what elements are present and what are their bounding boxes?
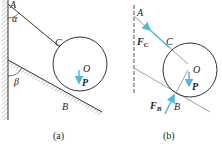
statics-diagram: A α C O P β B (a) A FC C O P FB B (b): [0, 0, 222, 149]
caption-a: (a): [53, 130, 64, 142]
caption-b: (b): [163, 130, 175, 142]
label-c: C: [55, 37, 62, 48]
label-o: O: [83, 63, 90, 74]
label-beta: β: [13, 76, 19, 87]
label-p-b: P: [192, 81, 199, 92]
figure-a: A α C O P β B (a): [2, 0, 107, 142]
wall-hatch: [2, 0, 8, 120]
force-fb-arrow: [165, 95, 174, 114]
normal-line: [176, 70, 188, 93]
label-p: P: [82, 77, 89, 88]
label-c-b: C: [166, 36, 173, 47]
label-a: A: [9, 0, 17, 10]
label-a-b: A: [136, 7, 144, 18]
label-b-b: B: [174, 101, 180, 112]
label-alpha: α: [12, 13, 18, 24]
figure-b: A FC C O P FB B (b): [134, 5, 217, 142]
label-fc: FC: [136, 36, 149, 49]
ball-b: [163, 43, 217, 97]
label-o-b: O: [193, 64, 200, 75]
label-b: B: [62, 101, 68, 112]
label-fb: FB: [149, 100, 162, 113]
rope-ac: [8, 4, 60, 47]
